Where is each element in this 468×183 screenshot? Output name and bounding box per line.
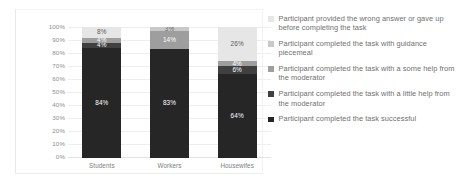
bar-segment-label: 84% <box>95 100 108 106</box>
y-axis-tick-label: 100% <box>49 24 65 30</box>
x-axis-tick-label: Workers <box>136 162 204 169</box>
legend-swatch-icon <box>268 91 274 97</box>
bar-segment[interactable]: 4% <box>82 38 121 43</box>
bar-column-workers[interactable]: 83%14%3% <box>150 27 189 158</box>
bar-segment[interactable]: 6% <box>218 66 257 74</box>
x-axis-tick-label: Students <box>68 162 136 169</box>
legend-item[interactable]: Participant completed the task with a li… <box>268 89 464 108</box>
bar-segment-label: 4% <box>97 43 106 48</box>
bar-segment-label: 83% <box>163 100 176 106</box>
bar-segment-label: 14% <box>163 37 176 43</box>
bar-column-housewifes[interactable]: 64%6%4%26% <box>218 27 257 158</box>
legend-item[interactable]: Participant completed the task with guid… <box>268 39 464 58</box>
legend-item-label: Participant provided the wrong answer or… <box>279 14 455 33</box>
y-axis-tick-label: 40% <box>52 102 65 108</box>
bar-segment[interactable]: 64% <box>218 74 257 158</box>
legend-item[interactable]: Participant completed the task with a so… <box>268 64 464 83</box>
y-axis-tick-label: 0% <box>56 154 65 160</box>
y-axis: 100%90%80%70%60%50%40%30%20%10%0% <box>32 24 65 158</box>
y-axis-tick-label: 80% <box>52 50 65 56</box>
y-axis-tick-label: 50% <box>52 89 65 95</box>
bar-segment[interactable]: 26% <box>218 27 257 61</box>
plot-area: 84%4%4%8%83%14%3%64%6%4%26% <box>68 27 271 158</box>
legend-item-label: Participant completed the task with a so… <box>279 64 455 83</box>
bar-segment-label: 4% <box>97 38 106 43</box>
legend-item[interactable]: Participant provided the wrong answer or… <box>268 14 464 33</box>
bar-segment-label: 64% <box>231 113 244 119</box>
x-axis-tick-label: Housewifes <box>203 162 271 169</box>
legend-item-label: Participant completed the task successfu… <box>279 114 417 123</box>
chart-screenshot: 100%90%80%70%60%50%40%30%20%10%0% 84%4%4… <box>0 0 468 183</box>
y-axis-tick-label: 30% <box>52 115 65 121</box>
y-axis-tick-label: 90% <box>52 37 65 43</box>
y-axis-tick-label: 20% <box>52 128 65 134</box>
bar-segment-label: 4% <box>232 61 241 66</box>
bar-segment-label: 26% <box>231 41 244 47</box>
legend-swatch-icon <box>268 117 274 123</box>
bar-column-students[interactable]: 84%4%4%8% <box>82 27 121 158</box>
bar-segment[interactable]: 83% <box>150 49 189 158</box>
legend-swatch-icon <box>268 16 274 22</box>
x-axis: StudentsWorkersHousewifes <box>68 162 271 176</box>
bar-segment[interactable]: 4% <box>218 61 257 66</box>
bar-segment[interactable]: 14% <box>150 31 189 49</box>
bar-segment[interactable]: 84% <box>82 48 121 158</box>
bar-segment[interactable]: 8% <box>82 27 121 37</box>
bar-segment-label: 3% <box>165 27 174 31</box>
legend-item[interactable]: Participant completed the task successfu… <box>268 114 464 123</box>
legend-swatch-icon <box>268 41 274 47</box>
bar-segment[interactable]: 3% <box>150 27 189 31</box>
bar-segment[interactable]: 4% <box>82 43 121 48</box>
y-axis-tick-label: 10% <box>52 141 65 147</box>
y-axis-tick-label: 60% <box>52 76 65 82</box>
chart-legend: Participant provided the wrong answer or… <box>268 14 464 130</box>
bar-segment-label: 6% <box>232 67 241 73</box>
legend-swatch-icon <box>268 66 274 72</box>
chart-plot-panel: 100%90%80%70%60%50%40%30%20%10%0% 84%4%4… <box>15 9 263 174</box>
bar-segment-label: 8% <box>97 29 106 35</box>
legend-item-label: Participant completed the task with guid… <box>279 39 455 58</box>
legend-item-label: Participant completed the task with a li… <box>279 89 455 108</box>
y-axis-tick-label: 70% <box>52 63 65 69</box>
